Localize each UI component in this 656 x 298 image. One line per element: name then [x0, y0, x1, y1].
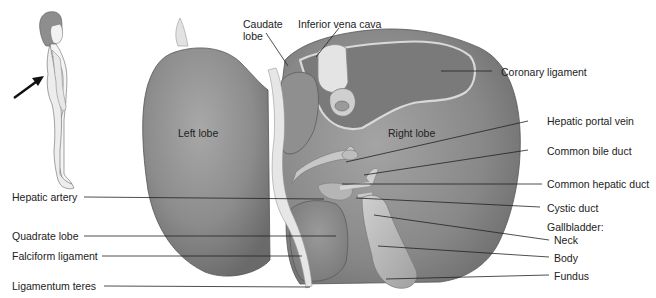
left-lobe — [143, 18, 270, 276]
falciform-ligament-label: Falciform ligament — [12, 250, 98, 262]
coronary-ligament-label: Coronary ligament — [501, 66, 587, 78]
hepatic-artery-label: Hepatic artery — [12, 191, 77, 203]
ligamentum-teres-label: Ligamentum teres — [12, 280, 96, 292]
quadrate-lobe-label: Quadrate lobe — [12, 230, 79, 242]
common-bile-duct-label: Common bile duct — [547, 145, 632, 157]
orientation-figure — [14, 12, 74, 189]
caudate-lobe-label-line1: Caudate — [243, 18, 283, 30]
hepatic-portal-vein-label: Hepatic portal vein — [547, 115, 634, 127]
gallbladder-body-label: Body — [554, 252, 578, 264]
liver-diagram: Left lobe Right lobe Caudate lobe Inferi… — [0, 0, 656, 298]
gallbladder-label: Gallbladder: — [547, 221, 604, 233]
left-lobe-label: Left lobe — [178, 127, 218, 139]
right-lobe-label: Right lobe — [388, 127, 435, 139]
gallbladder-fundus-label: Fundus — [554, 270, 589, 282]
common-hepatic-duct-label: Common hepatic duct — [547, 178, 649, 190]
inferior-vena-cava-label: Inferior vena cava — [298, 18, 381, 30]
cystic-duct-label: Cystic duct — [547, 202, 598, 214]
gallbladder-neck-label: Neck — [554, 234, 578, 246]
caudate-lobe-label-line2: lobe — [243, 30, 263, 42]
